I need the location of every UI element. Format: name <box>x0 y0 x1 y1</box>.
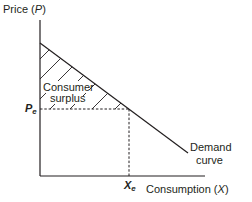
consumer-surplus-diagram: Price (P) Consumption (X) Pe Xe Consumer… <box>0 0 252 202</box>
consumer-surplus-label-line2: surplus <box>50 92 86 104</box>
y-axis-title: Price (P) <box>3 3 46 15</box>
equilibrium-price-label: Pe <box>25 102 37 116</box>
x-axis-title: Consumption (X) <box>146 183 229 195</box>
demand-curve-label-line1: Demand <box>190 141 232 153</box>
equilibrium-quantity-label: Xe <box>123 179 136 193</box>
demand-curve-label-line2: curve <box>196 154 223 166</box>
consumer-surplus-hatching <box>20 19 190 129</box>
